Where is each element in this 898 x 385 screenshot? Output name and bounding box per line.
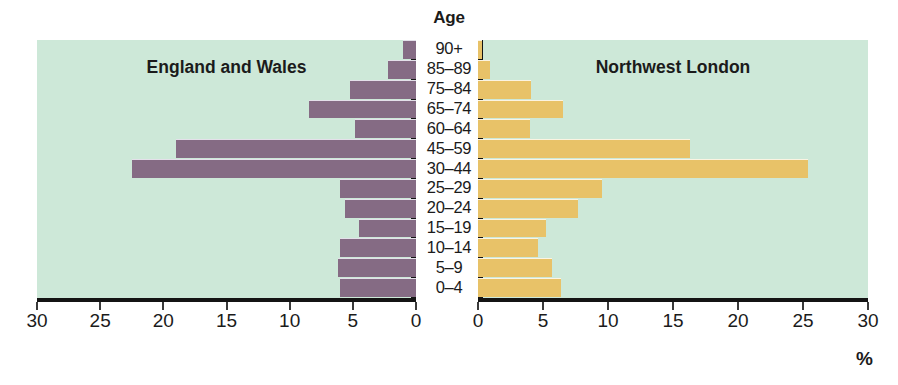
bar-right-75–84 xyxy=(478,80,531,99)
age-label-15–19: 15–19 xyxy=(415,218,483,237)
tick-label-right-15: 15 xyxy=(653,310,693,332)
tick-right-5 xyxy=(542,302,544,310)
tick-label-right-20: 20 xyxy=(718,310,758,332)
tick-label-left-0: 0 xyxy=(396,310,436,332)
bar-left-45–59 xyxy=(176,139,416,158)
age-label-45–59: 45–59 xyxy=(415,139,483,158)
tick-label-left-25: 25 xyxy=(80,310,120,332)
tick-right-20 xyxy=(737,302,739,310)
tick-right-0 xyxy=(477,302,479,310)
bar-left-25–29 xyxy=(340,179,416,198)
tick-left-5 xyxy=(352,302,354,310)
age-label-60–64: 60–64 xyxy=(415,119,483,138)
bar-right-60–64 xyxy=(478,119,530,138)
bar-right-65–74 xyxy=(478,100,563,119)
bar-left-65–74 xyxy=(309,100,416,119)
age-label-20–24: 20–24 xyxy=(415,198,483,217)
tick-right-30 xyxy=(867,302,869,310)
bar-left-60–64 xyxy=(355,119,416,138)
tick-right-10 xyxy=(607,302,609,310)
age-label-30–44: 30–44 xyxy=(415,159,483,178)
age-label-5–9: 5–9 xyxy=(415,258,483,277)
tick-left-15 xyxy=(226,302,228,310)
bar-right-0–4 xyxy=(478,278,561,297)
bar-left-5–9 xyxy=(338,258,416,277)
age-label-10–14: 10–14 xyxy=(415,238,483,257)
tick-label-left-10: 10 xyxy=(270,310,310,332)
tick-label-left-20: 20 xyxy=(143,310,183,332)
age-label-90+: 90+ xyxy=(415,39,483,58)
tick-label-right-0: 0 xyxy=(458,310,498,332)
bar-right-10–14 xyxy=(478,238,538,257)
population-pyramid-chart: Age England and Wales Northwest London 9… xyxy=(0,0,898,385)
bar-left-20–24 xyxy=(345,199,416,218)
bar-left-15–19 xyxy=(359,219,416,238)
tick-left-25 xyxy=(99,302,101,310)
age-label-65–74: 65–74 xyxy=(415,99,483,118)
unit-label: % xyxy=(856,348,873,370)
tick-right-15 xyxy=(672,302,674,310)
age-label-0–4: 0–4 xyxy=(415,278,483,297)
age-label-85–89: 85–89 xyxy=(415,59,483,78)
bar-right-5–9 xyxy=(478,258,552,277)
age-axis-title: Age xyxy=(415,8,483,28)
tick-left-0 xyxy=(415,302,417,310)
bar-right-15–19 xyxy=(478,219,546,238)
panel-title-left: England and Wales xyxy=(37,57,416,78)
age-label-25–29: 25–29 xyxy=(415,178,483,197)
bar-left-30–44 xyxy=(132,159,416,178)
bar-left-10–14 xyxy=(340,238,416,257)
bar-right-45–59 xyxy=(478,139,690,158)
tick-label-right-5: 5 xyxy=(523,310,563,332)
bar-right-20–24 xyxy=(478,199,578,218)
bar-left-75–84 xyxy=(350,80,416,99)
tick-left-10 xyxy=(289,302,291,310)
tick-label-left-30: 30 xyxy=(17,310,57,332)
tick-left-20 xyxy=(162,302,164,310)
panel-title-right: Northwest London xyxy=(478,57,868,78)
tick-label-right-25: 25 xyxy=(783,310,823,332)
bar-right-30–44 xyxy=(478,159,808,178)
tick-label-left-15: 15 xyxy=(207,310,247,332)
bar-left-0–4 xyxy=(340,278,416,297)
tick-left-30 xyxy=(36,302,38,310)
tick-label-left-5: 5 xyxy=(333,310,373,332)
bar-right-25–29 xyxy=(478,179,602,198)
tick-right-25 xyxy=(802,302,804,310)
tick-label-right-30: 30 xyxy=(848,310,888,332)
tick-label-right-10: 10 xyxy=(588,310,628,332)
age-label-75–84: 75–84 xyxy=(415,79,483,98)
